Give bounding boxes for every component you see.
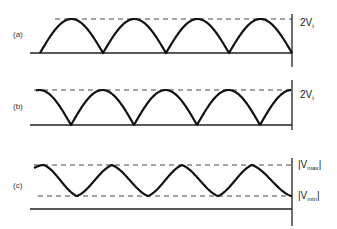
panel-c-vmin-label: |Vmin|	[298, 190, 320, 202]
panel-b-label: (b)	[13, 102, 23, 111]
panel-a-label: (a)	[13, 30, 23, 39]
panel-c-vmax-label: |Vmax|	[298, 159, 321, 171]
panel-a-level-label: 2Vt	[300, 17, 314, 29]
waveform-diagram: (a) 2Vt (b) 2Vt (c) |Vmax| |Vmin|	[0, 0, 337, 229]
panel-a: (a) 2Vt	[13, 14, 314, 67]
panel-b: (b) 2Vt	[13, 80, 314, 130]
panel-c: (c) |Vmax| |Vmin|	[13, 158, 321, 226]
panel-b-level-label: 2Vt	[300, 89, 314, 101]
panel-b-waveform	[36, 90, 291, 125]
panel-c-label: (c)	[13, 181, 23, 190]
panel-a-waveform	[40, 19, 292, 53]
panel-c-waveform	[34, 165, 292, 196]
